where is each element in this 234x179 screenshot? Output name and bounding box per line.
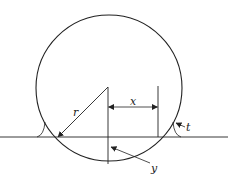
- left-fillet: [37, 122, 45, 137]
- label-y: y: [150, 162, 158, 175]
- fillet-diagram: r x t y: [0, 0, 234, 179]
- circle-outline: [36, 15, 182, 161]
- label-t: t: [186, 121, 191, 134]
- label-x: x: [130, 95, 137, 108]
- t-leader-arrow: [176, 123, 185, 127]
- label-r: r: [73, 106, 79, 119]
- radius-arrow: [58, 87, 108, 137]
- right-fillet: [173, 122, 181, 137]
